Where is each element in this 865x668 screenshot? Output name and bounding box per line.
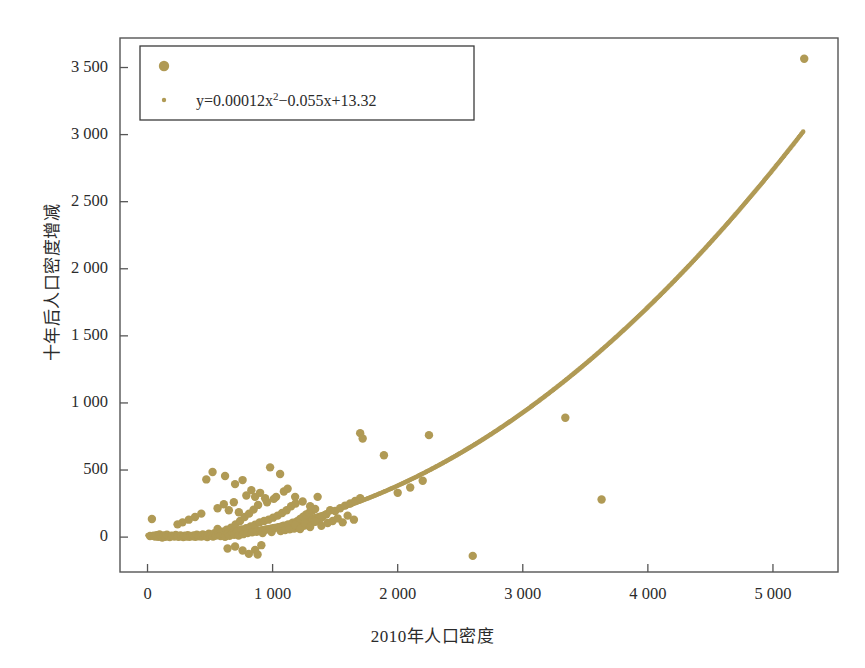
scatter-point: [393, 489, 401, 497]
scatter-point: [257, 541, 265, 549]
legend-equation-label: y=0.00012x2−0.055x+13.32: [196, 90, 377, 110]
scatter-point: [323, 519, 331, 527]
scatter-point: [469, 552, 477, 560]
legend-marker-large-dot: [159, 61, 169, 71]
x-tick-label: 0: [88, 584, 208, 604]
scatter-point: [148, 515, 156, 523]
scatter-point: [800, 55, 808, 63]
scatter-point: [202, 475, 210, 483]
scatter-point: [356, 494, 364, 502]
scatter-point: [231, 542, 239, 550]
y-axis-title: 十年后人口密度增减: [38, 133, 63, 433]
scatter-point: [283, 485, 291, 493]
x-axis-title: 2010年人口密度: [0, 622, 865, 647]
scatter-point: [231, 480, 239, 488]
scatter-point: [225, 506, 233, 514]
scatter-point: [173, 520, 181, 528]
scatter-chart-figure: y=0.00012x2−0.055x+13.32 01 0002 0003 00…: [0, 0, 865, 668]
scatter-point: [358, 434, 366, 442]
y-axis-title-wrap: 十年后人口密度增减: [18, 0, 52, 580]
scatter-point: [221, 472, 229, 480]
plot-canvas: [0, 0, 865, 668]
scatter-point: [276, 470, 284, 478]
scatter-point: [561, 414, 569, 422]
y-tick-label: 3 500: [0, 57, 108, 77]
curve-dot: [801, 129, 806, 134]
scatter-point: [597, 495, 605, 503]
y-tick-label: 0: [0, 526, 108, 546]
scatter-point: [425, 431, 433, 439]
scatter-point: [230, 498, 238, 506]
scatter-point: [208, 468, 216, 476]
scatter-point: [291, 493, 299, 501]
scatter-point: [270, 495, 278, 503]
scatter-point: [306, 502, 314, 510]
scatter-point: [235, 508, 243, 516]
scatter-point: [223, 544, 231, 552]
x-tick-label: 1 000: [213, 584, 333, 604]
scatter-point: [253, 550, 261, 558]
scatter-point: [350, 515, 358, 523]
x-tick-label: 5 000: [713, 584, 833, 604]
scatter-point: [338, 518, 346, 526]
scatter-point: [266, 463, 274, 471]
x-tick-label: 3 000: [463, 584, 583, 604]
x-tick-label: 4 000: [588, 584, 708, 604]
scatter-point: [419, 477, 427, 485]
y-tick-label: 500: [0, 459, 108, 479]
scatter-point: [313, 493, 321, 501]
scatter-point: [254, 501, 262, 509]
legend-marker-small-dot: [162, 98, 166, 102]
scatter-point: [298, 497, 306, 505]
scatter-point: [261, 494, 269, 502]
scatter-point: [406, 483, 414, 491]
x-tick-label: 2 000: [338, 584, 458, 604]
scatter-point: [380, 451, 388, 459]
scatter-point: [238, 476, 246, 484]
